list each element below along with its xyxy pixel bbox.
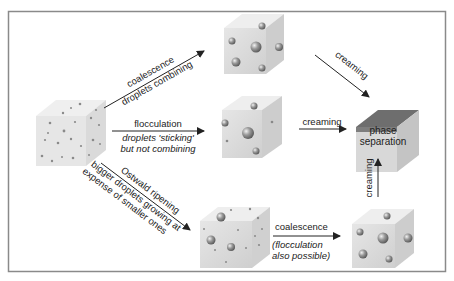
arrow-coalescence-top: coalescence droplets combining: [104, 47, 204, 108]
phase-separation-label-line2: separation: [360, 136, 407, 147]
coalescence-bottom-sublabel-line1: (flocculation: [272, 239, 323, 250]
flocculation-label: flocculation: [134, 118, 182, 129]
arrow-coalescence-bottom: coalescence (flocculation also possible): [272, 221, 340, 261]
ostwald-sublabel-line1: bigger droplets growing at: [89, 158, 183, 233]
arrow-creaming-top: creaming: [315, 49, 371, 97]
creaming-mid-label: creaming: [302, 116, 341, 127]
arrow-flocculation: flocculation droplets 'sticking' but not…: [112, 118, 204, 154]
cube-ripened-coalesced: [352, 209, 414, 268]
coalescence-bottom-sublabel-line2: also possible): [272, 250, 330, 261]
arrow-creaming-mid: creaming: [299, 116, 346, 129]
creaming-top-label: creaming: [333, 49, 371, 82]
cube-coalesced: [224, 14, 284, 74]
flocculation-sublabel-line2: but not combining: [121, 143, 197, 154]
cube-flocculated: [222, 96, 283, 158]
coalescence-bottom-label: coalescence: [275, 221, 328, 232]
diagram-canvas: phase separation coalescence dr: [0, 0, 454, 281]
flocculation-sublabel-line1: droplets 'sticking': [122, 132, 195, 143]
phase-separation-label-line1: phase: [369, 125, 397, 136]
arrow-ostwald-ripening: Ostwald ripening bigger droplets growing…: [80, 146, 191, 242]
creaming-up-label: creaming: [363, 158, 374, 197]
cube-initial: [36, 100, 106, 166]
cube-ripened: [200, 207, 270, 268]
